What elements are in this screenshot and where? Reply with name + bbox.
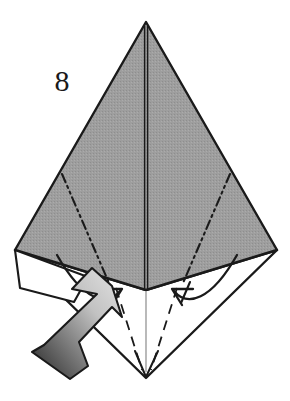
origami-diagram-figure: 8 <box>0 0 290 401</box>
origami-illustration: 8 <box>0 0 290 401</box>
upper-gray-triangle <box>15 22 277 290</box>
step-number: 8 <box>55 64 70 97</box>
